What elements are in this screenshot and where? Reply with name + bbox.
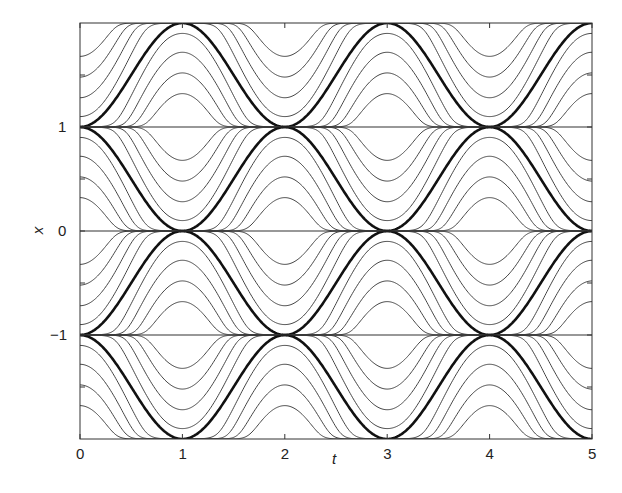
x-tick-label: 2 — [281, 445, 289, 462]
x-tick-label: 4 — [486, 445, 494, 462]
x-axis-label: t — [332, 450, 336, 467]
y-tick-label: 0 — [58, 222, 66, 239]
y-tick-label: 1 — [58, 118, 66, 135]
solution-curve — [80, 260, 592, 335]
x-tick-label: 3 — [383, 445, 391, 462]
y-tick-label: −1 — [50, 326, 67, 343]
solution-curve — [80, 335, 592, 410]
x-tick-label: 0 — [76, 445, 84, 462]
solution-curve — [80, 231, 592, 306]
solution-curve — [80, 364, 592, 439]
solution-curve — [80, 127, 592, 202]
x-tick-label: 1 — [178, 445, 186, 462]
y-axis-label: x — [29, 227, 46, 235]
phase-plot — [0, 0, 622, 493]
x-tick-label: 5 — [588, 445, 596, 462]
solution-curve — [80, 23, 592, 98]
solution-curve — [80, 52, 592, 127]
solution-curve — [80, 156, 592, 231]
